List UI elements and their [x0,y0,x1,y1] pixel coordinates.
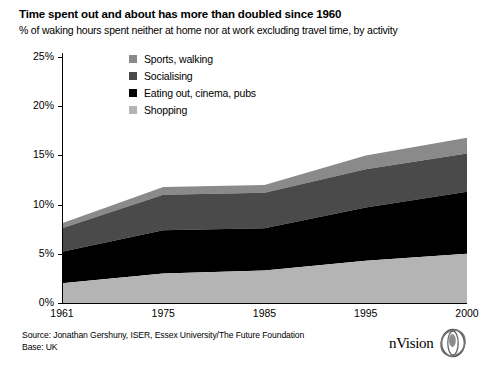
source-note: Source: Jonathan Gershuny, ISER, Essex U… [22,330,304,340]
x-tick-label-1961: 1961 [32,307,92,319]
y-tick-label-15: 15% [18,148,54,160]
base-note: Base: UK [22,342,58,352]
nvision-logo: nVision [389,328,468,358]
nvision-logo-text: nVision [389,335,434,352]
y-tick-label-10: 10% [18,198,54,210]
y-tick-label-25: 25% [18,50,54,62]
x-tick-label-1985: 1985 [235,307,295,319]
y-tick-label-20: 20% [18,99,54,111]
chart-container: Time spent out and about has more than d… [0,0,499,379]
y-tick-label-5: 5% [18,247,54,259]
x-tick-label-1975: 1975 [133,307,193,319]
stacked-area-plot [0,0,499,379]
x-tick-label-1995: 1995 [336,307,396,319]
area-series-group [62,138,467,303]
nvision-eye-logo-icon [438,328,468,358]
x-tick-label-2000: 2000 [437,307,497,319]
